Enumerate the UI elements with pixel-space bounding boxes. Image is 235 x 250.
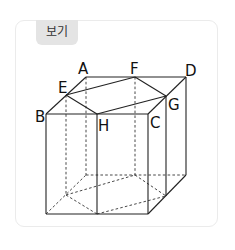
edge-bottom-FG (135, 175, 166, 196)
label-B: B (35, 108, 45, 126)
edge-bottom-right (148, 175, 186, 214)
label-A: A (78, 60, 89, 78)
edge-DC (148, 77, 186, 114)
label-F: F (130, 60, 139, 78)
edge-bottom-EH (66, 195, 97, 214)
label-C: C (150, 114, 160, 132)
edge-EH (66, 95, 97, 114)
label-D: D (185, 62, 197, 80)
edge-FG (135, 77, 166, 96)
edge-HG (97, 96, 166, 114)
edge-bottom-EF (66, 175, 135, 195)
label-H: H (98, 117, 109, 135)
label-E: E (58, 79, 67, 97)
label-G: G (168, 96, 180, 114)
edge-bottom-left (46, 175, 86, 214)
vertex-labels: A F D E G B H C (35, 60, 197, 135)
edge-bottom-HG (97, 196, 166, 214)
cube-diagram: A F D E G B H C (0, 0, 235, 250)
